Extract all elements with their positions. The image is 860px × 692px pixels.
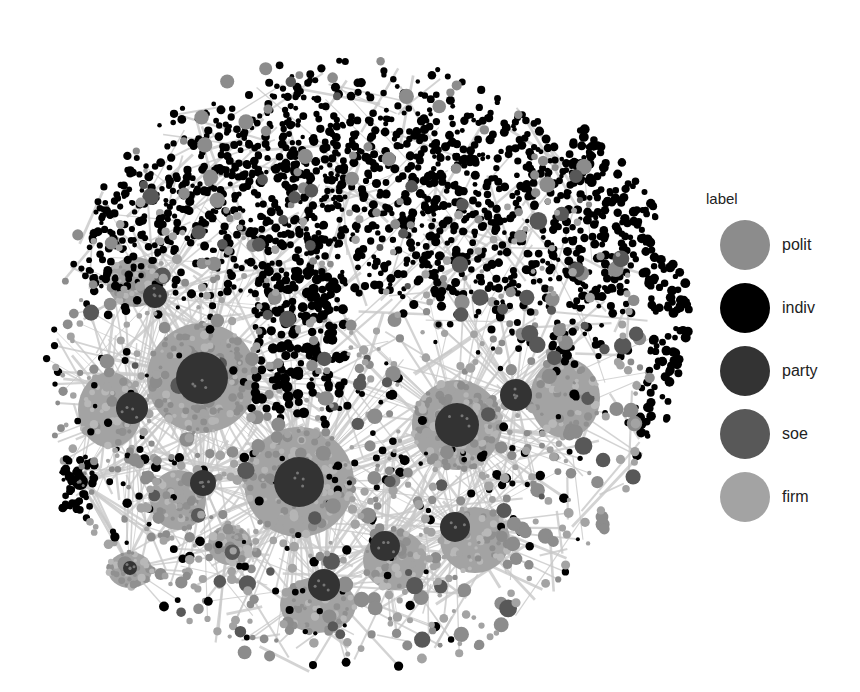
legend-item-soe: soe [706, 402, 846, 465]
legend-item-polit: polit [706, 213, 846, 276]
legend-label: firm [782, 488, 809, 506]
legend-item-party: party [706, 339, 846, 402]
legend-label: indiv [782, 299, 815, 317]
indiv-swatch-icon [720, 283, 770, 333]
legend-title: label [706, 190, 846, 207]
legend-label: polit [782, 236, 811, 254]
firm-swatch-icon [720, 472, 770, 522]
legend: label polit indiv party soe firm [706, 190, 846, 528]
legend-item-indiv: indiv [706, 276, 846, 339]
legend-label: soe [782, 425, 808, 443]
soe-swatch-icon [720, 409, 770, 459]
legend-item-firm: firm [706, 465, 846, 528]
legend-label: party [782, 362, 818, 380]
polit-swatch-icon [720, 220, 770, 270]
party-swatch-icon [720, 346, 770, 396]
